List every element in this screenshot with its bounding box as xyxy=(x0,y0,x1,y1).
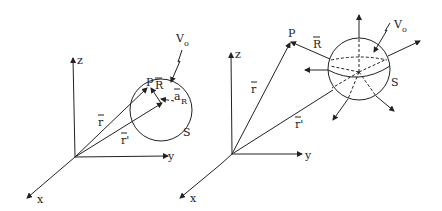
left-aR-label: a xyxy=(174,90,181,103)
right-r-prime-vector xyxy=(232,90,333,154)
left-r-vector xyxy=(75,88,147,157)
left-x-axis xyxy=(27,157,75,198)
left-surface-label: S xyxy=(183,126,191,139)
right-P-label: P xyxy=(288,27,296,40)
right-sphere-radius-r xyxy=(359,60,385,72)
right-x-label: x xyxy=(190,192,197,205)
right-flux-arrow-down xyxy=(333,99,348,120)
left-y-label: y xyxy=(167,150,175,163)
right-surface-label: S xyxy=(391,76,399,89)
right-flux-arrow-downright xyxy=(376,96,394,111)
left-y-axis xyxy=(75,156,168,157)
right-R-label: R xyxy=(313,38,322,51)
right-x-axis xyxy=(221,154,232,164)
left-r-label: r xyxy=(98,116,104,129)
left-unit-vector xyxy=(161,99,174,101)
right-z-axis xyxy=(231,53,232,154)
right-x-axis-ext xyxy=(180,164,221,198)
left-P-label: P xyxy=(146,76,154,89)
left-vo-lightning-icon xyxy=(171,50,182,82)
right-r-prime-label: r' xyxy=(295,118,303,131)
right-vo-sub: o xyxy=(402,25,407,34)
right-z-label: z xyxy=(235,48,241,61)
right-flux-arrow-upright xyxy=(388,41,420,56)
left-z-axis xyxy=(73,58,75,157)
left-r-prime-label: r' xyxy=(121,134,129,147)
right-r-label: r xyxy=(251,83,257,96)
right-sphere-radius-l xyxy=(330,66,359,72)
diagram-canvas: z y x S r r' P R a R V o z y xyxy=(0,0,442,211)
left-R-label: R xyxy=(155,79,164,92)
right-y-label: y xyxy=(304,149,312,162)
left-z-label: z xyxy=(77,54,83,67)
right-R-vector xyxy=(291,42,330,59)
left-aR-sub: R xyxy=(181,97,188,106)
left-r-prime-vector xyxy=(75,103,162,157)
right-panel: z y x r r' P R V o S xyxy=(180,15,420,205)
left-x-label: x xyxy=(37,193,44,206)
right-sphere-radius-ll xyxy=(332,72,359,88)
right-sphere-radius-down xyxy=(348,72,359,99)
left-vo-sub: o xyxy=(184,39,189,48)
left-panel: z y x S r r' P R a R V o xyxy=(27,32,192,206)
